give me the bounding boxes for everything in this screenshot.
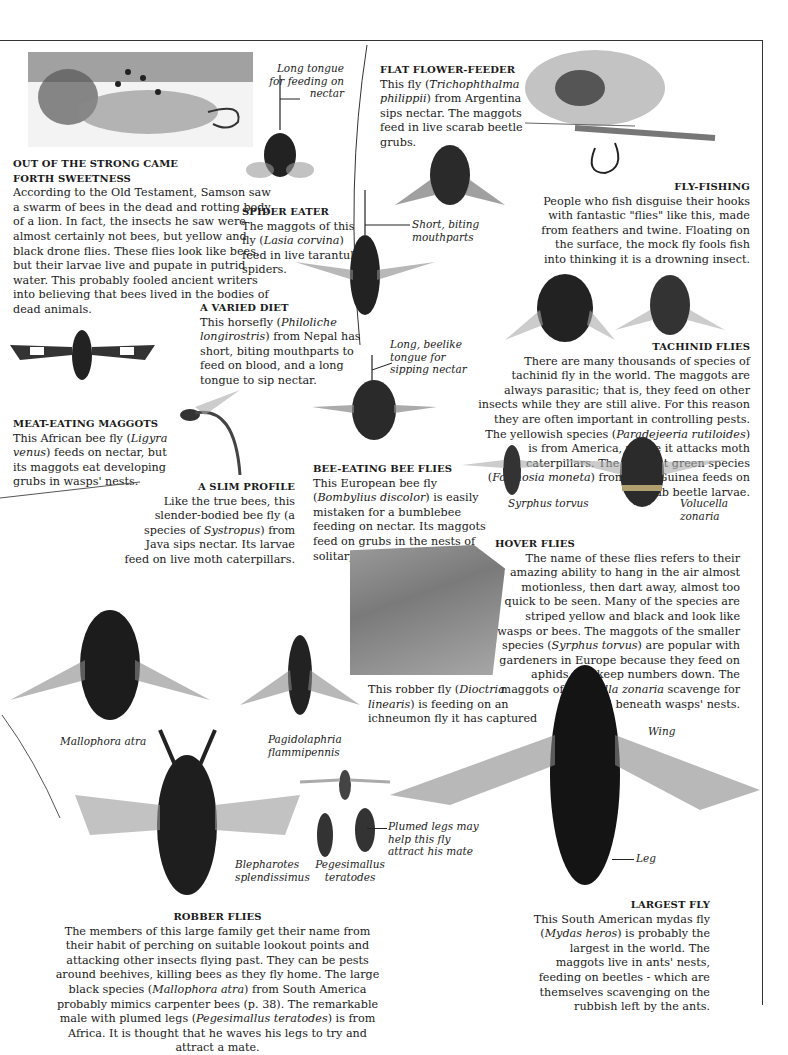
- systropus-fly-photo: [175, 385, 255, 480]
- fly-fishing-section: FLY-FISHING People who fish disguise the…: [535, 180, 750, 268]
- bombylius-fly-photo: [312, 355, 437, 445]
- hover-flies-heading: HOVER FLIES: [495, 537, 740, 552]
- robber-flies-heading: ROBBER FLIES: [55, 910, 380, 925]
- dioctria-linearis-photo: [350, 545, 505, 675]
- pegesimallus-fly-photo: [300, 760, 390, 860]
- slim-profile-heading: A SLIM PROFILE: [120, 480, 295, 495]
- volucella-label: Volucella zonaria: [680, 497, 730, 522]
- plumed-legs-lead-line: [367, 828, 387, 829]
- samson-body: According to the Old Testament, Samson s…: [13, 186, 273, 317]
- samson-heading-line2: FORTH SWEETNESS: [13, 172, 273, 187]
- leg-lead-line: [612, 859, 634, 860]
- largest-fly-section: LARGEST FLY This South American mydas fl…: [530, 898, 710, 1015]
- meat-eating-heading: MEAT-EATING MAGGOTS: [13, 417, 173, 432]
- samson-section: OUT OF THE STRONG CAME FORTH SWEETNESS A…: [13, 157, 273, 318]
- fly-fishing-heading: FLY-FISHING: [535, 180, 750, 195]
- wing-annotation: Wing: [648, 725, 675, 738]
- robber-flies-section: ROBBER FLIES The members of this large f…: [55, 910, 380, 1055]
- page-frame-top-rule: [0, 40, 762, 41]
- slim-profile-body: Like the true bees, this slender-bodied …: [120, 495, 295, 568]
- largest-fly-heading: LARGEST FLY: [530, 898, 710, 913]
- syrphus-label: Syrphus torvus: [508, 497, 589, 510]
- pegesimallus-label: Pegesimallus teratodes: [315, 858, 385, 883]
- mydas-heros-fly-photo: [390, 665, 760, 890]
- decorative-curve-line-left: [0, 710, 65, 820]
- slim-profile-section: A SLIM PROFILE Like the true bees, this …: [120, 480, 295, 568]
- lion-engraving-illustration: [28, 52, 253, 147]
- varied-diet-heading: A VARIED DIET: [200, 301, 365, 316]
- tachinid-flies-photos: [505, 270, 725, 345]
- largest-fly-body: This South American mydas fly (Mydas her…: [530, 913, 710, 1015]
- fly-fishing-body: People who fish disguise their hooks wit…: [535, 195, 750, 268]
- ligyra-venus-fly-photo: [10, 325, 155, 405]
- samson-heading-line1: OUT OF THE STRONG CAME: [13, 157, 273, 172]
- blepharotes-label: Blepharotes splendissimus: [235, 858, 305, 883]
- tachinid-heading: TACHINID FLIES: [478, 340, 750, 355]
- long-tongue-fly-photo: [245, 75, 315, 195]
- leg-annotation: Leg: [636, 852, 656, 865]
- page-frame-right-rule: [762, 40, 763, 1005]
- robber-flies-body: The members of this large family get the…: [55, 925, 380, 1055]
- pagidolaphria-fly-photo: [240, 625, 360, 720]
- fishing-fly-lure-illustration: [515, 48, 760, 178]
- decorative-curve-line: [0, 480, 140, 500]
